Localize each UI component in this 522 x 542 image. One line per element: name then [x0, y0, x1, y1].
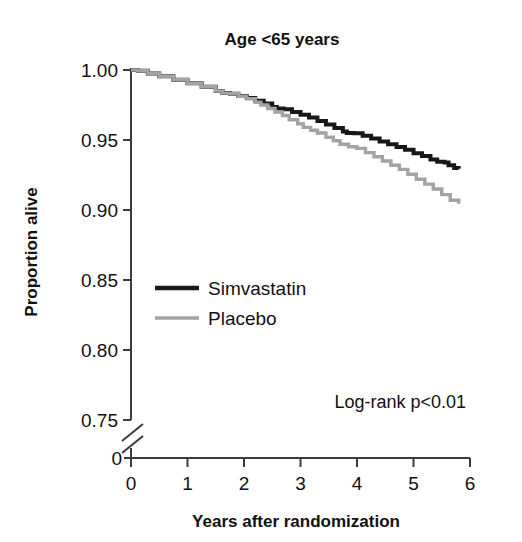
chart-title: Age <65 years — [225, 30, 340, 49]
x-tick-label-5: 5 — [408, 473, 419, 494]
y-tick-label-5: 0.75 — [81, 410, 118, 431]
survival-chart: Age <65 years 1.000.950.900.850.800.75 0… — [0, 0, 522, 542]
y-tick-label-zero: 0 — [111, 448, 122, 469]
x-tick-group: 0123456 — [126, 458, 476, 494]
y-tick-label-0: 1.00 — [81, 60, 118, 81]
x-tick-label-0: 0 — [126, 473, 137, 494]
x-tick-label-2: 2 — [239, 473, 250, 494]
y-tick-label-2: 0.90 — [81, 200, 118, 221]
y-tick-group: 1.000.950.900.850.800.75 — [81, 60, 131, 431]
logrank-annotation: Log-rank p<0.01 — [334, 392, 466, 412]
x-tick-label-1: 1 — [182, 473, 193, 494]
chart-legend: Simvastatin Placebo — [155, 278, 306, 329]
x-axis-title: Years after randomization — [192, 512, 400, 531]
legend-label-placebo: Placebo — [208, 308, 277, 329]
legend-label-simvastatin: Simvastatin — [208, 278, 306, 299]
axis-break-icon — [122, 424, 143, 453]
x-tick-label-6: 6 — [465, 473, 476, 494]
y-tick-label-4: 0.80 — [81, 340, 118, 361]
chart-figure: Age <65 years 1.000.950.900.850.800.75 0… — [0, 0, 522, 542]
x-tick-label-4: 4 — [352, 473, 363, 494]
y-tick-label-3: 0.85 — [81, 270, 118, 291]
y-axis-title: Proportion alive — [22, 187, 41, 316]
x-tick-label-3: 3 — [295, 473, 306, 494]
y-tick-label-1: 0.95 — [81, 130, 118, 151]
series-line-placebo — [131, 70, 459, 204]
